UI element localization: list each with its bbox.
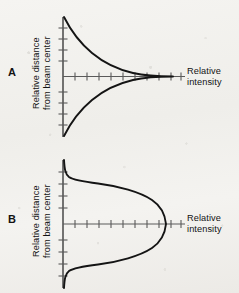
- panel-a: A Relative distance from beam center Rel…: [0, 0, 239, 146]
- panel-a-plot: [0, 0, 239, 146]
- panel-b-plot: [0, 146, 239, 293]
- panel-b: B Relative distance from beam center Rel…: [0, 146, 239, 293]
- beam-profile-figure: A Relative distance from beam center Rel…: [0, 0, 239, 293]
